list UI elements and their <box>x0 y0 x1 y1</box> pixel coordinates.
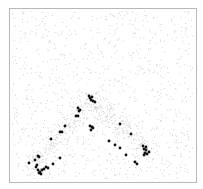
background-point <box>92 149 93 150</box>
background-point <box>31 11 32 12</box>
background-point <box>56 149 57 150</box>
background-point <box>48 31 49 32</box>
background-point <box>31 160 32 161</box>
data-point <box>28 162 31 165</box>
background-point <box>49 109 50 110</box>
background-point <box>83 143 84 144</box>
background-point <box>146 16 147 17</box>
background-point <box>15 94 16 95</box>
background-point <box>14 107 15 108</box>
background-point <box>48 138 49 139</box>
background-point <box>141 68 142 69</box>
background-point <box>184 77 185 78</box>
background-point <box>184 64 185 65</box>
background-point <box>73 130 74 131</box>
background-point <box>53 139 54 140</box>
background-point <box>63 162 64 163</box>
background-point <box>57 110 58 111</box>
background-point <box>93 136 94 137</box>
background-point <box>178 48 179 49</box>
background-point <box>170 133 171 134</box>
background-point <box>132 11 133 12</box>
background-point <box>75 172 76 173</box>
background-point <box>35 19 36 20</box>
background-point <box>122 90 123 91</box>
background-point <box>156 167 157 168</box>
background-point <box>131 72 132 73</box>
background-point <box>132 154 133 155</box>
background-point <box>176 173 177 174</box>
background-point <box>146 159 147 160</box>
background-point <box>83 123 84 124</box>
background-point <box>136 132 137 133</box>
background-point <box>68 93 69 94</box>
background-point <box>22 11 23 12</box>
background-point <box>124 132 125 133</box>
background-point <box>135 98 136 99</box>
background-point <box>66 91 67 92</box>
background-point <box>96 123 97 124</box>
background-point <box>96 108 97 109</box>
background-point <box>185 33 186 34</box>
background-point <box>162 77 163 78</box>
background-point <box>64 138 65 139</box>
background-point <box>27 166 28 167</box>
background-point <box>70 54 71 55</box>
background-point <box>135 157 136 158</box>
background-point <box>110 41 111 42</box>
background-point <box>167 67 168 68</box>
background-point <box>105 98 106 99</box>
background-point <box>127 125 128 126</box>
background-point <box>149 70 150 71</box>
background-point <box>35 110 36 111</box>
background-point <box>64 55 65 56</box>
background-point <box>117 159 118 160</box>
background-point <box>175 37 176 38</box>
background-point <box>107 105 108 106</box>
background-point <box>162 159 163 160</box>
background-point <box>184 50 185 51</box>
background-point <box>50 141 51 142</box>
background-point <box>40 130 41 131</box>
background-point <box>43 139 44 140</box>
background-point <box>139 58 140 59</box>
background-point <box>136 51 137 52</box>
background-point <box>126 125 127 126</box>
background-point <box>174 142 175 143</box>
background-point <box>96 111 97 112</box>
background-point <box>24 34 25 35</box>
background-point <box>85 44 86 45</box>
background-point <box>50 132 51 133</box>
background-point <box>173 155 174 156</box>
background-point <box>87 98 88 99</box>
background-point <box>69 126 70 127</box>
background-point <box>24 62 25 63</box>
background-point <box>141 170 142 171</box>
background-point <box>185 145 186 146</box>
background-point <box>102 90 103 91</box>
background-point <box>48 41 49 42</box>
background-point <box>142 127 143 128</box>
background-point <box>135 167 136 168</box>
background-point <box>156 65 157 66</box>
background-point <box>45 23 46 24</box>
background-point <box>126 117 127 118</box>
background-point <box>161 67 162 68</box>
background-point <box>57 105 58 106</box>
background-point <box>60 114 61 115</box>
background-point <box>88 103 89 104</box>
background-point <box>15 25 16 26</box>
background-point <box>111 105 112 106</box>
background-point <box>189 117 190 118</box>
background-point <box>68 125 69 126</box>
background-point <box>190 70 191 71</box>
background-point <box>63 170 64 171</box>
background-point <box>58 174 59 175</box>
background-point <box>119 37 120 38</box>
background-point <box>96 18 97 19</box>
background-point <box>69 127 70 128</box>
background-point <box>189 139 190 140</box>
background-point <box>179 73 180 74</box>
background-point <box>16 153 17 154</box>
background-point <box>115 45 116 46</box>
